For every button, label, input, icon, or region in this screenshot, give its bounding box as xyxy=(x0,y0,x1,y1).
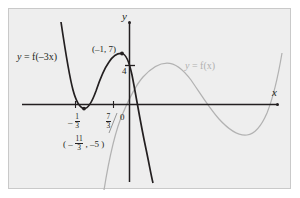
label-curve-f-neg-3x: y = f(–3x) xyxy=(17,52,57,62)
tick-label-seven-thirds: 7 3 xyxy=(106,113,111,129)
label-minimum-point: ( – 11 3 , –5 ) xyxy=(63,135,104,151)
figure-graph-transformations: y x 0 4 y = f(–3x) y = f(x) (–1, 7) ( – … xyxy=(0,0,300,198)
axis-label-y: y xyxy=(122,11,127,22)
label-minimum-open-paren: ( xyxy=(63,139,66,149)
figure-frame: y x 0 4 y = f(–3x) y = f(x) (–1, 7) ( – … xyxy=(8,8,291,189)
origin-label: 0 xyxy=(120,113,125,122)
label-f-neg-3x-lhs: y xyxy=(17,51,21,62)
axis-label-x: x xyxy=(272,87,277,98)
dot-maximum-point xyxy=(120,52,124,56)
y-intercept-label: 4 xyxy=(122,67,127,76)
tick-label-a-sign: – xyxy=(68,117,73,127)
dot-minimum-point xyxy=(82,107,86,111)
label-curve-fx: y = f(x) xyxy=(185,61,215,71)
label-f-neg-3x-eq: = xyxy=(24,51,30,62)
label-minimum-y-value: –5 xyxy=(90,139,99,149)
label-fx-lhs: y xyxy=(185,60,189,71)
label-fx-rhs: f(x) xyxy=(200,60,215,71)
curve-original-fx xyxy=(104,53,282,190)
tick-label-a-fraction: 1 3 xyxy=(75,113,80,129)
tick-label-b-fraction: 7 3 xyxy=(106,113,111,129)
label-minimum-close-paren: ) xyxy=(101,139,104,149)
label-f-neg-3x-rhs: f(–3x) xyxy=(32,51,57,62)
label-minimum-denominator: 3 xyxy=(75,144,83,152)
label-minimum-sign: – xyxy=(68,139,73,149)
tick-label-b-denominator: 3 xyxy=(106,122,111,130)
label-maximum-point: (–1, 7) xyxy=(92,45,116,54)
label-fx-eq: = xyxy=(192,60,198,71)
x-axis-end-dot xyxy=(276,103,279,106)
graph-plot-area xyxy=(9,9,292,190)
tick-label-a-denominator: 3 xyxy=(75,122,80,130)
y-axis-end-dot xyxy=(128,21,131,24)
tick-label-neg-one-third: – 1 3 xyxy=(68,113,80,129)
label-minimum-fraction: 11 3 xyxy=(75,135,83,151)
